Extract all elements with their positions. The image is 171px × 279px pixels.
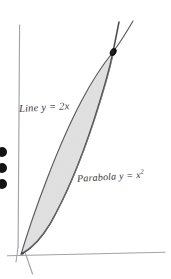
y-axis — [18, 25, 20, 247]
y-axis-below-origin — [26, 254, 33, 275]
parabola-equation-prefix: y = — [119, 169, 137, 181]
graph-sketch — [0, 0, 171, 279]
line-equation-prefix: y = 2 — [41, 100, 65, 112]
y-axis-origin-join — [16, 247, 18, 262]
shaded-area-stipple — [23, 52, 114, 253]
origin-point-marker — [21, 252, 24, 255]
line-label-equation: y = 2x — [41, 100, 70, 113]
figure-canvas: Line y = 2x Parabola y = x2 — [0, 0, 171, 279]
line-equation-variable: x — [64, 100, 69, 111]
line-label-name: Line — [19, 102, 39, 114]
parabola-label-equation: y = x2 — [119, 169, 145, 182]
parabola-equation-exponent: 2 — [140, 167, 144, 174]
shaded-area-between-curves — [23, 52, 114, 253]
x-axis — [8, 252, 166, 256]
